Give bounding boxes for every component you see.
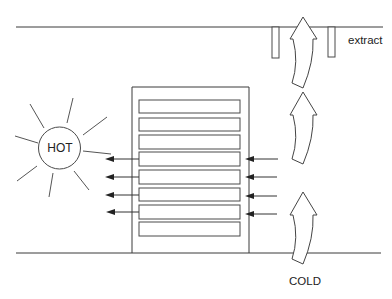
cold-intake-arrows [245, 156, 278, 217]
rack-slot [139, 118, 240, 131]
airflow-arrow-up-top [290, 17, 317, 88]
server-rack [132, 87, 249, 253]
airflow-arrow-up-middle [290, 92, 317, 164]
cold-label: COLD [289, 275, 321, 287]
extract-label: extract [348, 34, 383, 46]
rack-slot [139, 152, 240, 166]
hot-label: HOT [47, 141, 73, 155]
airflow-diagram: extract [0, 0, 392, 299]
rack-slot [139, 135, 240, 149]
extract-vent-right [328, 27, 335, 57]
extract-vent-left [272, 27, 279, 58]
rack-slot [139, 222, 240, 236]
rack-slot [139, 170, 240, 184]
rack-slot [139, 100, 240, 113]
rack-slot [139, 188, 240, 201]
hot-exhaust-arrows [105, 156, 139, 215]
rack-slot [139, 205, 240, 219]
